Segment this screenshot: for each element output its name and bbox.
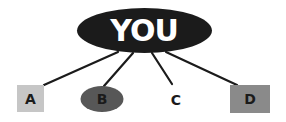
edge-you-d	[166, 52, 237, 85]
edge-you-c	[152, 53, 172, 84]
node-c: C	[171, 92, 181, 108]
edges	[44, 52, 237, 86]
edge-you-b	[104, 53, 133, 86]
node-you-label: YOU	[109, 13, 178, 48]
diagram-canvas: YOU A B C D	[0, 0, 286, 122]
node-c-label: C	[171, 92, 181, 108]
node-d-label: D	[244, 91, 256, 107]
node-a: A	[17, 85, 44, 112]
edge-you-a	[44, 52, 118, 85]
node-b-label: B	[97, 91, 108, 107]
node-you: YOU	[77, 8, 212, 53]
diagram-svg: YOU A B C D	[0, 0, 286, 122]
node-d: D	[230, 85, 270, 113]
node-a-label: A	[25, 91, 36, 107]
node-b: B	[81, 86, 124, 112]
